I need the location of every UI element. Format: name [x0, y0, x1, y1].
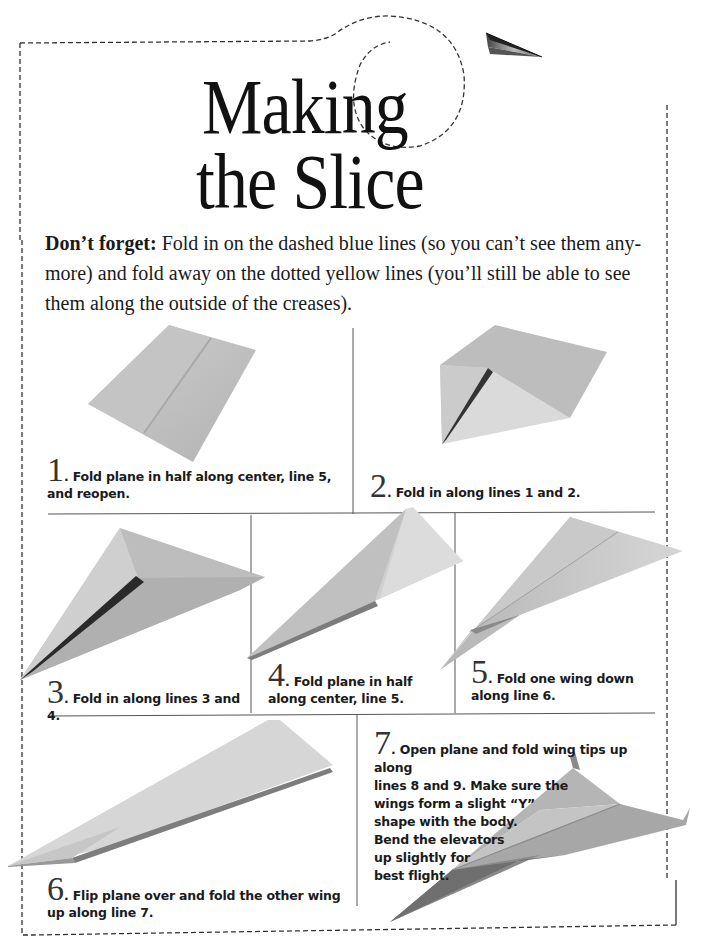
step-3-caption: 3. Fold in along lines 3 and 4. — [47, 680, 247, 724]
step-text: Fold plane in half along center, line 5. — [268, 674, 412, 706]
step-number: 3 — [47, 673, 64, 710]
step-text: Flip plane over and fold the other wing … — [47, 888, 341, 920]
step-text: Fold in along lines 3 and 4. — [47, 691, 240, 723]
step-number: 2 — [370, 467, 387, 504]
step-6-illustration — [8, 720, 333, 867]
step-text: Fold one wing down along line 6. — [471, 671, 634, 703]
step-number: 4 — [268, 656, 285, 693]
step-text: Fold in along lines 1 and 2. — [392, 485, 581, 500]
step-4-caption: 4. Fold plane in half along center, line… — [268, 663, 448, 707]
step-1-caption: 1. Fold plane in half along center, line… — [47, 458, 347, 502]
step-text: Fold plane in half along center, line 5,… — [47, 469, 331, 501]
step-5-caption: 5. Fold one wing down along line 6. — [471, 660, 661, 704]
step-number: 1 — [47, 451, 64, 488]
step-3-illustration — [20, 528, 265, 680]
step-2-illustration — [440, 325, 607, 444]
step-number: 5 — [471, 653, 488, 690]
step-number: 7 — [374, 724, 391, 761]
step-2-caption: 2. Fold in along lines 1 and 2. — [370, 474, 660, 501]
step-1-illustration — [88, 325, 256, 462]
step-6-caption: 6. Flip plane over and fold the other wi… — [47, 877, 347, 921]
step-5-illustration — [440, 517, 683, 670]
step-number: 6 — [47, 870, 64, 907]
step-4-illustration — [247, 507, 463, 660]
step-7-caption: 7. Open plane and fold wing tips up alon… — [374, 731, 664, 885]
